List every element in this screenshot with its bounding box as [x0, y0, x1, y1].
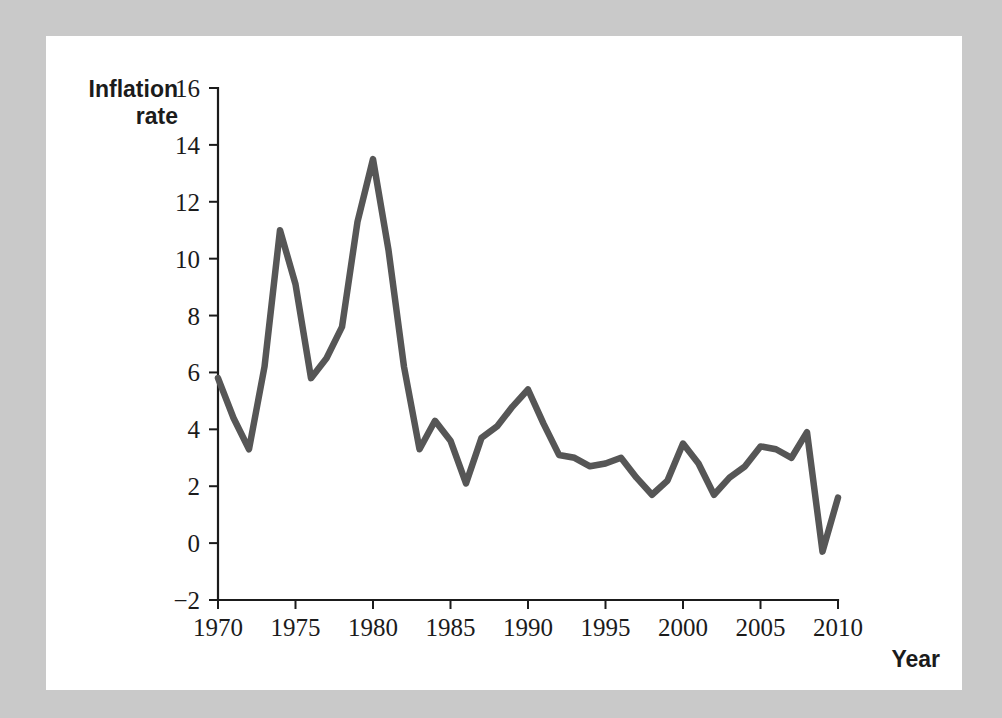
y-axis-tick-label: 8	[188, 303, 201, 330]
y-axis-tick-label: 0	[188, 530, 201, 557]
x-axis-tick-label: 2000	[658, 614, 708, 641]
inflation-line-chart: −20246810121416 197019751980198519901995…	[0, 0, 1002, 718]
x-axis-tick-label: 1980	[348, 614, 398, 641]
y-axis-tick-label: 14	[175, 132, 201, 159]
y-axis-title-line2: rate	[136, 103, 178, 129]
y-axis-tick-label: −2	[173, 587, 200, 614]
y-axis-tick-label: 4	[188, 416, 201, 443]
x-axis-ticks: 197019751980198519901995200020052010	[193, 600, 863, 641]
y-axis-tick-label: 2	[188, 473, 201, 500]
x-axis-tick-label: 1975	[271, 614, 321, 641]
inflation-rate-series	[218, 159, 838, 552]
x-axis-title: Year	[891, 646, 940, 672]
x-axis-tick-label: 1985	[426, 614, 476, 641]
x-axis-tick-label: 1995	[581, 614, 631, 641]
chart-page: −20246810121416 197019751980198519901995…	[0, 0, 1002, 718]
y-axis-tick-label: 12	[175, 189, 200, 216]
y-axis-tick-label: 16	[175, 75, 200, 102]
x-axis-tick-label: 2010	[813, 614, 863, 641]
x-axis-tick-label: 1990	[503, 614, 553, 641]
x-axis-tick-label: 1970	[193, 614, 243, 641]
y-axis-title-line1: Inflation	[89, 76, 178, 102]
y-axis-ticks: −20246810121416	[173, 75, 218, 614]
y-axis-tick-label: 6	[188, 359, 201, 386]
y-axis-tick-label: 10	[175, 246, 200, 273]
x-axis-tick-label: 2005	[736, 614, 786, 641]
